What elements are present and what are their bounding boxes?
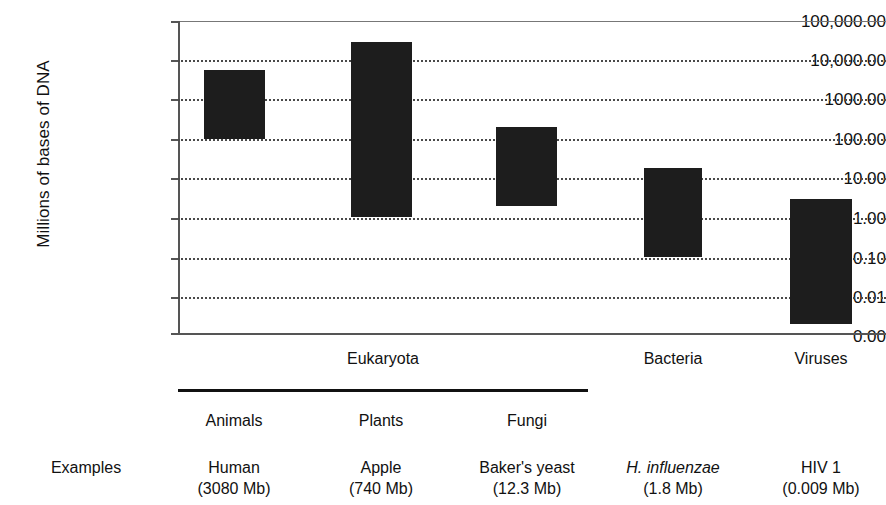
gridline-10000 [178, 60, 886, 62]
group-label-viruses: Viruses [746, 350, 886, 368]
plot-area [178, 21, 886, 335]
y-tick-mark-1 [171, 218, 178, 220]
bar-viruses [790, 199, 852, 324]
y-tick-mark-0.01 [171, 297, 178, 299]
group-label-bacteria: Bacteria [598, 350, 748, 368]
category-label-animals: Animals [159, 412, 309, 430]
y-tick-mark-10000 [171, 60, 178, 62]
plot-top-border [178, 21, 886, 22]
example-animals-name: Human [159, 457, 309, 478]
y-tick-mark-10 [171, 178, 178, 180]
example-animals: Human (3080 Mb) [159, 457, 309, 499]
y-tick-mark-100000 [171, 21, 178, 23]
category-label-plants: Plants [306, 412, 456, 430]
bar-fungi [496, 127, 557, 206]
y-tick-mark-0.00 [171, 333, 178, 335]
example-plants: Apple (740 Mb) [306, 457, 456, 499]
category-label-fungi: Fungi [452, 412, 602, 430]
genome-size-range-chart: Millions of bases of DNA 100,000.00 10,0… [0, 0, 886, 505]
gridline-1000 [178, 99, 886, 101]
y-tick-mark-100 [171, 139, 178, 141]
example-plants-size: (740 Mb) [306, 478, 456, 499]
example-bacteria-name: H. influenzae [598, 457, 748, 478]
gridline-1 [178, 218, 886, 220]
y-tick-mark-0.10 [171, 258, 178, 260]
example-viruses: HIV 1 (0.009 Mb) [746, 457, 886, 499]
example-fungi: Baker's yeast (12.3 Mb) [452, 457, 602, 499]
eukaryota-group-rule [178, 389, 588, 392]
bar-bacteria [644, 168, 702, 257]
group-label-eukaryota: Eukaryota [308, 350, 458, 368]
example-bacteria-size: (1.8 Mb) [598, 478, 748, 499]
example-viruses-name: HIV 1 [746, 457, 886, 478]
example-plants-name: Apple [306, 457, 456, 478]
bar-animals [204, 70, 265, 139]
y-axis-title: Millions of bases of DNA [32, 14, 56, 294]
examples-row-label: Examples [16, 459, 156, 477]
example-bacteria: H. influenzae (1.8 Mb) [598, 457, 748, 499]
example-fungi-name: Baker's yeast [452, 457, 602, 478]
bar-plants [351, 42, 412, 218]
x-axis-line [178, 333, 886, 335]
gridline-0.10 [178, 258, 886, 260]
example-viruses-size: (0.009 Mb) [746, 478, 886, 499]
gridline-0.01 [178, 297, 886, 299]
example-animals-size: (3080 Mb) [159, 478, 309, 499]
y-tick-mark-1000 [171, 99, 178, 101]
example-fungi-size: (12.3 Mb) [452, 478, 602, 499]
